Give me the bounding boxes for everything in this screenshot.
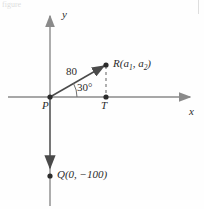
x-axis-label: x — [189, 106, 194, 117]
point-label-r: R(a1, a2) — [113, 58, 151, 72]
point-label-q: Q(0, −100) — [57, 169, 107, 180]
point-dot-r — [103, 62, 108, 67]
point-dot-q — [47, 173, 52, 178]
vector-diagram-figure: x y P T R(a1, a2) Q(0, −100) 80 30° figu… — [0, 0, 204, 209]
point-label-r-mid: , a — [133, 57, 144, 69]
page-artifact-rule — [198, 0, 199, 14]
point-label-p: P — [42, 100, 49, 111]
angle-label: 30° — [77, 82, 92, 93]
point-label-r-close: ) — [147, 57, 151, 69]
point-label-r-main: R(a — [113, 57, 129, 69]
page-artifact-text: figure — [2, 0, 21, 9]
point-label-t: T — [101, 100, 107, 111]
magnitude-label: 80 — [66, 66, 77, 77]
y-axis-label: y — [62, 9, 67, 20]
